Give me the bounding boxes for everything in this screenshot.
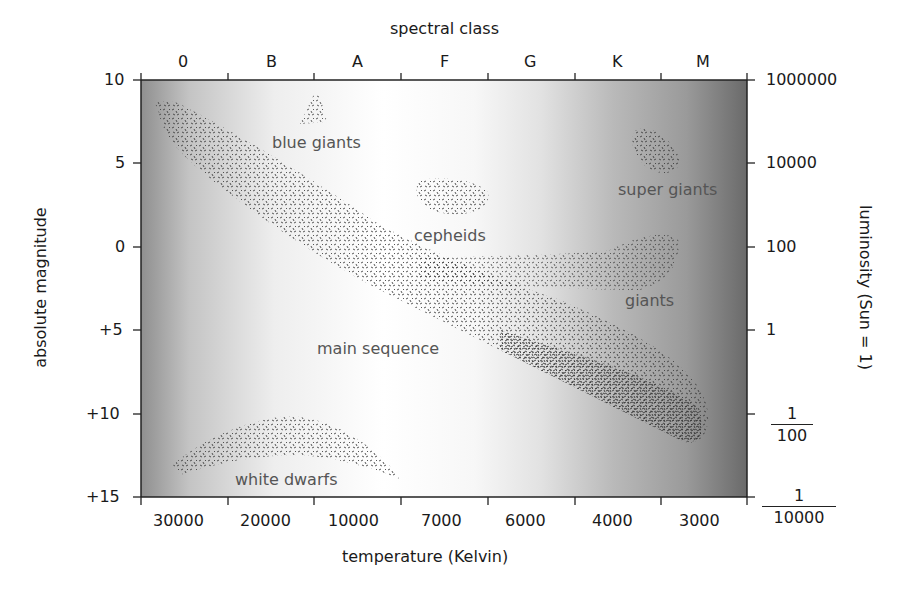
lum-label-1000000: 1000000 bbox=[766, 70, 837, 89]
mag-label-plus10: +10 bbox=[86, 404, 120, 423]
temp-label-4000: 4000 bbox=[592, 511, 633, 530]
cepheids-label: cepheids bbox=[414, 226, 486, 245]
super-giants-label: super giants bbox=[618, 180, 717, 199]
temp-label-30000: 30000 bbox=[153, 511, 204, 530]
lum-label-10000: 10000 bbox=[766, 153, 817, 172]
lum-label-1: 1 bbox=[766, 320, 776, 339]
mag-label-5: 5 bbox=[115, 153, 125, 172]
temp-label-7000: 7000 bbox=[421, 511, 462, 530]
mag-label-0: 0 bbox=[115, 237, 125, 256]
white-dwarfs-label: white dwarfs bbox=[235, 470, 337, 489]
mag-label-10: 10 bbox=[104, 70, 124, 89]
temp-label-3000: 3000 bbox=[679, 511, 720, 530]
spectral-label-a: A bbox=[352, 52, 363, 71]
spectral-label-m: M bbox=[696, 52, 710, 71]
main-sequence-label: main sequence bbox=[317, 339, 439, 358]
spectral-label-f: F bbox=[440, 52, 449, 71]
temperature-axis-title: temperature (Kelvin) bbox=[342, 547, 508, 566]
lum-label-1-100: 1 100 bbox=[771, 405, 813, 445]
lum-label-100: 100 bbox=[766, 237, 797, 256]
temp-label-6000: 6000 bbox=[505, 511, 546, 530]
spectral-label-o: 0 bbox=[178, 52, 188, 71]
absolute-magnitude-axis-title: absolute magnitude bbox=[31, 207, 50, 367]
spectral-label-b: B bbox=[266, 52, 277, 71]
spectral-class-axis-title: spectral class bbox=[390, 19, 499, 38]
lum-label-1-10000: 1 10000 bbox=[762, 487, 836, 527]
temp-label-20000: 20000 bbox=[240, 511, 291, 530]
mag-label-plus15: +15 bbox=[86, 487, 120, 506]
luminosity-axis-title: luminosity (Sun = 1) bbox=[856, 205, 875, 370]
giants-label: giants bbox=[625, 291, 674, 310]
temp-label-10000: 10000 bbox=[328, 511, 379, 530]
spectral-label-g: G bbox=[524, 52, 536, 71]
mag-label-plus5: +5 bbox=[99, 320, 123, 339]
spectral-label-k: K bbox=[612, 52, 623, 71]
blue-giants-label: blue giants bbox=[272, 133, 361, 152]
